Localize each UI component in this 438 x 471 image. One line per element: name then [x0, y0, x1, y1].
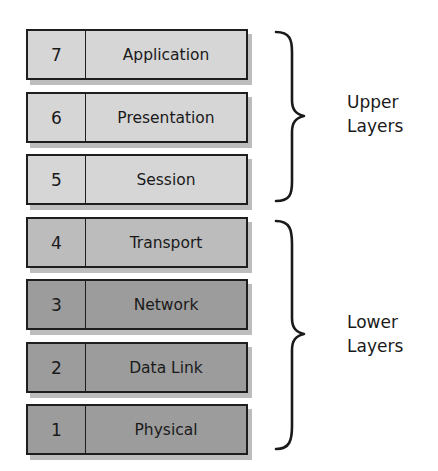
upper-label-line1: Upper	[347, 90, 403, 114]
lower-brace-icon	[276, 221, 304, 449]
upper-label-line2: Layers	[347, 114, 403, 138]
upper-brace-icon	[276, 32, 304, 201]
lower-label-line2: Layers	[347, 334, 403, 358]
lower-label-line1: Lower	[347, 310, 403, 334]
lower-layers-label: Lower Layers	[347, 310, 403, 358]
upper-layers-label: Upper Layers	[347, 90, 403, 138]
brace-icons	[0, 0, 438, 471]
